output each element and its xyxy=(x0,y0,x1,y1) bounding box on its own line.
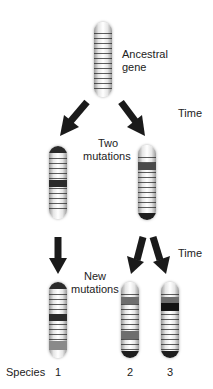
ancestral-label-line1: Ancestral xyxy=(122,48,168,61)
lower-band-mutation xyxy=(49,341,67,350)
arrow-down-left-icon xyxy=(60,102,87,136)
bottom-cap-mutation xyxy=(138,213,156,220)
species-1-label: 1 xyxy=(55,366,61,379)
arrow-down-icon xyxy=(49,237,67,274)
new-mutations-label-line2: mutations xyxy=(71,283,119,296)
upper-black-band-mutation xyxy=(161,303,179,311)
species-3-label: 3 xyxy=(167,366,173,379)
upper-band-mutation xyxy=(138,163,156,170)
time-label-bottom: Time xyxy=(178,247,202,260)
species-label: Species xyxy=(6,366,45,379)
arrow-down-right-icon xyxy=(153,237,170,274)
bottom-cap-mutation xyxy=(161,351,179,358)
lineage-a-chromosome xyxy=(49,146,67,219)
time-label-top: Time xyxy=(178,107,202,120)
top-cap-mutation xyxy=(49,146,67,153)
ancestral-gene-chromosome xyxy=(94,22,112,97)
species-1-chromosome xyxy=(49,282,67,358)
two-mutations-label-line1: Two xyxy=(98,137,118,150)
upper-band-mutation xyxy=(121,297,139,304)
bottom-cap-mutation xyxy=(121,351,139,358)
middle-band-mutation xyxy=(49,180,67,187)
arrow-down-right-icon xyxy=(121,102,145,136)
arrow-down-left-icon xyxy=(127,237,144,274)
species-2-label: 2 xyxy=(127,366,133,379)
ancestral-label-line2: gene xyxy=(122,61,146,74)
species-3-chromosome xyxy=(161,282,179,358)
middle-band-mutation xyxy=(49,314,67,321)
species-2-chromosome xyxy=(121,282,139,358)
lower-band-mutation xyxy=(121,331,139,339)
top-cap-mutation xyxy=(49,282,67,289)
two-mutations-label-line2: mutations xyxy=(83,150,131,163)
lineage-b-chromosome xyxy=(138,145,156,220)
new-mutations-label-line1: New xyxy=(84,270,106,283)
